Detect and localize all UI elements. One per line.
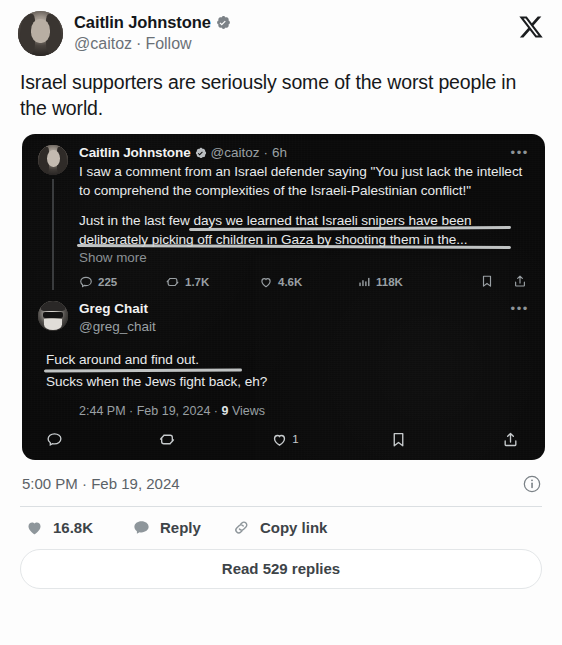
quoted-tweet-2-line-1-wrap: Fuck around and find out. xyxy=(46,351,529,370)
quoted-tweet-2-line-1: Fuck around and find out. xyxy=(46,352,199,367)
quoted-tweet-1-paragraph-1: I saw a comment from an Israel defender … xyxy=(79,163,529,201)
quoted-tweet-2-name-block: Greg Chait @greg_chait ••• xyxy=(79,301,529,336)
tweet-screenshot: Caitlin Johnstone @caitoz · Follow Israe… xyxy=(0,0,562,645)
main-tweet-timestamp: 5:00 PM · Feb 19, 2024 xyxy=(22,475,180,492)
quoted-tweet-1-text: I saw a comment from an Israel defender … xyxy=(79,163,529,249)
handle-separator: · xyxy=(264,145,269,161)
reply-metric[interactable]: 225 xyxy=(79,275,165,289)
avatar[interactable] xyxy=(18,11,63,56)
handdrawn-underline-2 xyxy=(77,244,511,249)
timestamp-separator-1: · xyxy=(129,404,137,418)
quoted-tweet-1-metrics: 225 1.7K 4.6K xyxy=(79,274,529,290)
reply-filled-icon xyxy=(131,518,152,537)
quoted-tweet-1-left-rail xyxy=(36,145,70,290)
more-options-icon[interactable]: ••• xyxy=(511,146,529,159)
avatar-image xyxy=(38,301,68,331)
timestamp: 6h xyxy=(272,145,287,161)
like-count: 4.6K xyxy=(278,276,302,288)
heart-icon xyxy=(259,275,273,289)
quoted-tweet-2: Greg Chait @greg_chait ••• xyxy=(22,301,545,336)
reply-count: 225 xyxy=(98,276,117,288)
footer-stats-row: 16.8K Reply Copy link xyxy=(0,507,562,537)
retweet-count: 1.7K xyxy=(185,276,209,288)
author-display-name: Caitlin Johnstone xyxy=(79,145,191,161)
share-icon xyxy=(502,431,519,448)
verified-badge-icon xyxy=(216,15,231,30)
quoted-tweet-1-paragraph-2: Just in the last few days we learned tha… xyxy=(79,212,529,250)
verified-badge-icon xyxy=(195,147,207,159)
retweet-metric[interactable]: 1.7K xyxy=(165,275,259,289)
avatar-detail-glasses xyxy=(43,312,63,318)
avatar[interactable] xyxy=(38,145,68,175)
analytics-icon xyxy=(357,275,371,289)
main-tweet-timestamp-row: 5:00 PM · Feb 19, 2024 xyxy=(0,460,562,494)
like-button[interactable]: 1 xyxy=(271,431,298,448)
reply-button[interactable] xyxy=(46,431,67,448)
author-handle: @greg_chait xyxy=(79,319,505,336)
quoted-tweet-2-line-2: Sucks when the Jews fight back, eh? xyxy=(46,373,529,392)
quoted-tweet-2-actions: 1 xyxy=(22,418,545,450)
like-button-count: 1 xyxy=(292,433,298,445)
heart-filled-icon xyxy=(24,518,45,537)
quoted-tweet-1-name-row: Caitlin Johnstone @caitoz · 6h ••• xyxy=(79,145,529,161)
show-more-button[interactable]: Show more xyxy=(79,250,529,265)
quoted-tweet-2-date: Feb 19, 2024 xyxy=(137,404,211,418)
avatar-image xyxy=(38,145,68,175)
bookmark-icon xyxy=(480,274,494,288)
follow-button[interactable]: Follow xyxy=(145,34,191,54)
footer-reply[interactable]: Reply xyxy=(131,518,201,537)
author-block: Caitlin Johnstone @caitoz · Follow xyxy=(74,11,231,55)
bookmark-icon xyxy=(390,431,407,448)
share-button[interactable] xyxy=(502,431,523,448)
bookmark-button[interactable] xyxy=(390,431,411,448)
footer-copy-link-label: Copy link xyxy=(260,519,328,536)
avatar-detail-face xyxy=(47,150,60,167)
author-display-name: Caitlin Johnstone xyxy=(74,12,211,33)
footer-likes[interactable]: 16.8K xyxy=(24,518,93,537)
read-replies-button[interactable]: Read 529 replies xyxy=(20,549,542,589)
handle-separator: · xyxy=(136,34,141,54)
author-name-row: Caitlin Johnstone xyxy=(74,12,231,33)
views-metric[interactable]: 118K xyxy=(357,275,480,289)
heart-icon xyxy=(271,431,288,448)
avatar-detail-beard xyxy=(44,319,62,330)
more-options-icon[interactable]: ••• xyxy=(511,302,529,315)
x-logo-icon[interactable] xyxy=(518,14,544,40)
footer-copy-link[interactable]: Copy link xyxy=(231,518,328,537)
quoted-thread-card[interactable]: Caitlin Johnstone @caitoz · 6h ••• I saw… xyxy=(22,134,545,459)
like-metric[interactable]: 4.6K xyxy=(259,275,357,289)
quoted-tweet-1: Caitlin Johnstone @caitoz · 6h ••• I saw… xyxy=(22,145,545,290)
quoted-tweet-2-views-count: 9 xyxy=(221,404,228,418)
quoted-tweet-1-body: Caitlin Johnstone @caitoz · 6h ••• I saw… xyxy=(70,145,529,290)
quoted-tweet-1-right-icons xyxy=(480,274,527,290)
bookmark-button[interactable] xyxy=(480,274,494,290)
author-handle: @caitoz xyxy=(211,145,260,161)
avatar[interactable] xyxy=(38,301,68,331)
quoted-tweet-2-text: Fuck around and find out. Sucks when the… xyxy=(22,338,545,392)
quoted-tweet-2-timestamp: 2:44 PM · Feb 19, 2024 · 9 Views xyxy=(22,392,545,418)
author-handle-row: @caitoz · Follow xyxy=(74,34,231,54)
quoted-tweet-2-views-label: Views xyxy=(232,404,265,418)
share-icon xyxy=(513,274,527,288)
thread-connector-line xyxy=(52,179,54,290)
retweet-button[interactable] xyxy=(158,431,180,448)
views-count: 118K xyxy=(376,276,403,288)
footer-likes-count: 16.8K xyxy=(53,519,93,536)
author-display-name: Greg Chait xyxy=(79,301,505,318)
avatar-detail-cap xyxy=(41,301,65,311)
tweet-header: Caitlin Johnstone @caitoz · Follow xyxy=(0,0,562,56)
link-icon xyxy=(231,518,252,537)
retweet-icon xyxy=(158,431,176,448)
author-handle: @caitoz xyxy=(74,34,132,54)
avatar-detail-face xyxy=(31,19,50,43)
quoted-tweet-2-left-rail xyxy=(36,301,70,336)
quoted-tweet-2-time: 2:44 PM xyxy=(79,404,126,418)
tweet-body-text: Israel supporters are seriously some of … xyxy=(0,56,562,121)
info-icon[interactable] xyxy=(522,474,542,494)
reply-icon xyxy=(46,431,63,448)
handdrawn-underline-3 xyxy=(44,368,242,372)
footer-reply-label: Reply xyxy=(160,519,201,536)
retweet-icon xyxy=(165,275,180,289)
share-button[interactable] xyxy=(513,274,527,290)
reply-icon xyxy=(79,275,93,289)
